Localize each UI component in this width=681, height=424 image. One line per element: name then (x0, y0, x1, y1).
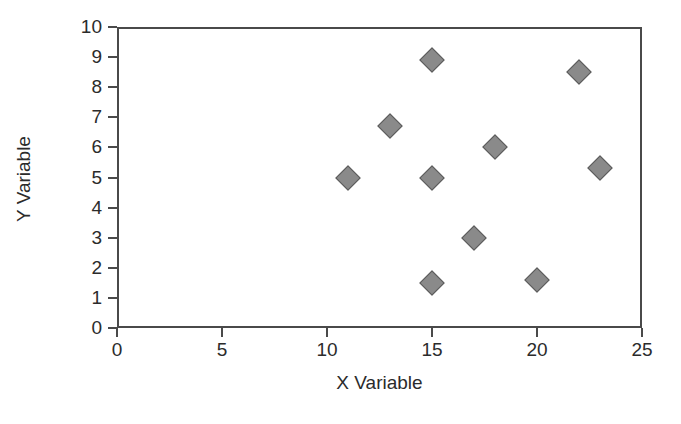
x-axis-tick (221, 328, 223, 337)
x-axis-tick (536, 328, 538, 337)
x-axis-tick-label: 25 (620, 340, 664, 359)
y-axis-tick-label: 5 (62, 168, 102, 187)
x-axis-title: X Variable (117, 372, 642, 394)
y-axis-tick-label: 6 (62, 137, 102, 156)
y-axis-tick-label: 1 (62, 288, 102, 307)
x-axis-tick-label: 10 (305, 340, 349, 359)
x-axis-tick-label: 5 (200, 340, 244, 359)
y-axis-tick (108, 267, 117, 269)
y-axis-tick (108, 146, 117, 148)
y-axis-tick (108, 207, 117, 209)
y-axis-tick-label: 0 (62, 318, 102, 337)
y-axis-tick (108, 86, 117, 88)
x-axis-tick-label: 0 (95, 340, 139, 359)
x-axis-tick (431, 328, 433, 337)
y-axis-tick (108, 116, 117, 118)
y-axis-tick-label: 7 (62, 107, 102, 126)
y-axis-tick (108, 56, 117, 58)
x-axis-tick (641, 328, 643, 337)
y-axis-tick (108, 237, 117, 239)
y-axis-tick-label: 3 (62, 228, 102, 247)
y-axis-tick-label: 8 (62, 77, 102, 96)
y-axis-tick (108, 177, 117, 179)
plot-area-frame (117, 27, 642, 328)
y-axis-tick-label: 4 (62, 198, 102, 217)
y-axis-tick (108, 26, 117, 28)
y-axis-title: Y Variable (13, 99, 35, 259)
y-axis-tick-label: 2 (62, 258, 102, 277)
x-axis-tick (326, 328, 328, 337)
scatter-plot-figure: 012345678910 0510152025 X Variable Y Var… (0, 0, 681, 424)
x-axis-tick (116, 328, 118, 337)
x-axis-tick-label: 20 (515, 340, 559, 359)
y-axis-tick-label: 9 (62, 47, 102, 66)
x-axis-tick-label: 15 (410, 340, 454, 359)
y-axis-tick (108, 297, 117, 299)
y-axis-tick-label: 10 (62, 17, 102, 36)
